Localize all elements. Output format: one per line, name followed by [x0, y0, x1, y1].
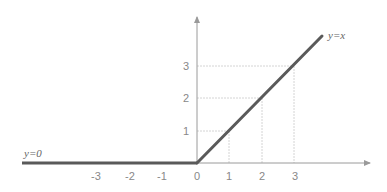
y-tick-label: 1 — [183, 125, 189, 137]
x-tick-label: 3 — [292, 170, 298, 182]
relu-chart: -3 -2 -1 0 1 2 3 1 2 3 y=0 y=x — [0, 0, 387, 192]
x-tick-label: -2 — [125, 170, 135, 182]
x-tick-label: -3 — [91, 170, 101, 182]
series-y-equals-x — [197, 36, 322, 163]
x-tick-label: -1 — [157, 170, 167, 182]
annotation-y-equals-x: y=x — [327, 29, 345, 41]
x-tick-label: 2 — [259, 170, 265, 182]
x-tick-label: 0 — [194, 170, 200, 182]
y-tick-label: 2 — [183, 92, 189, 104]
y-tick-label: 3 — [183, 60, 189, 72]
annotation-y-equals-0: y=0 — [23, 147, 42, 159]
x-tick-label: 1 — [226, 170, 232, 182]
